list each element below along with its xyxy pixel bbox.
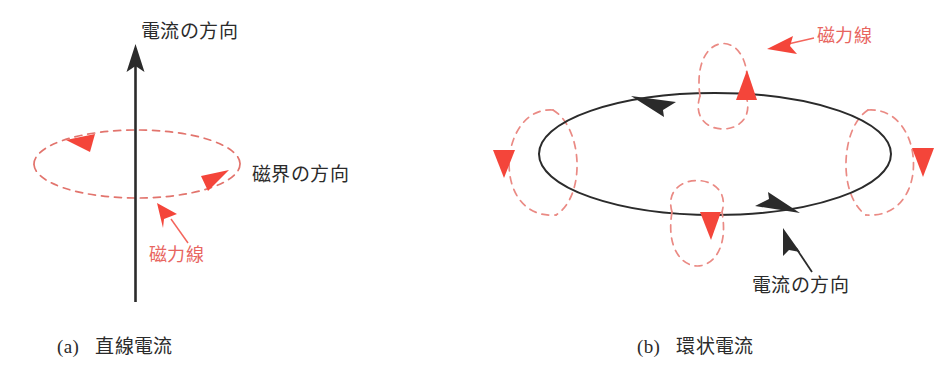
label-current-direction-a: 電流の方向 (141, 22, 238, 41)
figure-canvas: .ink { stroke: #2b2b2b; fill: none; } .i… (0, 0, 952, 384)
flux-line-pointer-a (157, 203, 188, 243)
flux-line-pointer-b (767, 36, 814, 54)
current-direction-pointer-b (783, 228, 812, 272)
current-loop-ellipse-b (539, 93, 891, 215)
current-arrow-a (127, 44, 145, 302)
flux-line-pointer-shaft-a (171, 219, 188, 243)
flux-loop-top-upper-b (699, 44, 747, 97)
caption-panel-a: (a)直線電流 (57, 337, 173, 356)
label-flux-line-b: 磁力線 (817, 27, 872, 45)
label-current-direction-b: 電流の方向 (752, 276, 849, 295)
panel-a-straight-current (34, 44, 240, 302)
flux-loop-top-lower-b (698, 96, 748, 129)
flux-arrowhead-b-bottom (700, 212, 721, 240)
flux-loops-b-behind (553, 96, 868, 215)
flux-arrowhead-b-top (736, 70, 757, 100)
flux-loop-right-inner-b (846, 110, 868, 215)
label-field-direction-a: 磁界の方向 (252, 165, 349, 184)
caption-panel-b: (b)環状電流 (637, 337, 754, 356)
caption-tag-b: (b) (637, 337, 660, 356)
flux-arrowhead-a-right (201, 170, 229, 191)
flux-loop-bottom-upper-b (671, 181, 724, 213)
flux-arrowhead-b-right (912, 148, 934, 177)
current-loop-arrowhead-bottom-b (755, 192, 800, 213)
flux-loop-left-outer-b (509, 110, 556, 215)
caption-text-a: 直線電流 (95, 337, 173, 356)
current-direction-pointer-head-b (783, 228, 800, 256)
label-flux-line-a: 磁力線 (149, 246, 204, 264)
flux-loop-left-inner-b (553, 110, 577, 215)
caption-tag-a: (a) (57, 337, 79, 356)
flux-arrowhead-b-left (493, 150, 515, 178)
current-loop-arrowhead-top-b (631, 96, 676, 117)
figure-root: .ink { stroke: #2b2b2b; fill: none; } .i… (0, 0, 952, 384)
current-loop-b (539, 93, 891, 215)
panel-b-loop-current (493, 36, 934, 272)
caption-text-b: 環状電流 (676, 337, 754, 356)
flux-arrowhead-a-left (66, 134, 95, 152)
flux-ellipse-back-a (34, 130, 240, 164)
flux-line-pointer-head-b (767, 36, 797, 54)
